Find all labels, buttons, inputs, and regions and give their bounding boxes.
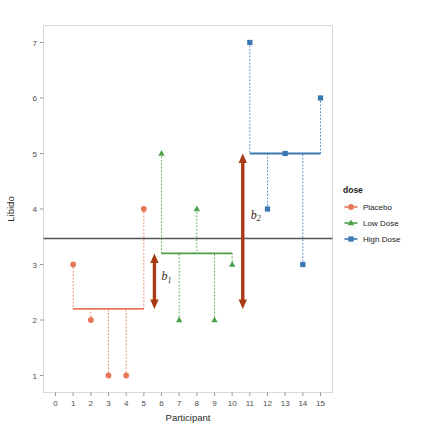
legend-item-placebo[interactable]: Placebo [344, 200, 392, 214]
data-point-circle [106, 373, 112, 379]
x-tick-label: 11 [246, 399, 255, 408]
legend-label: High Dose [363, 235, 401, 244]
data-point-circle [123, 373, 129, 379]
x-tick-label: 3 [106, 399, 111, 408]
data-point-square [265, 206, 270, 211]
y-axis-title: Libido [5, 196, 16, 221]
data-point-square [247, 40, 252, 45]
annotation-subscript: 2 [257, 214, 261, 223]
plot-panel [44, 26, 333, 393]
y-tick-label: 7 [33, 39, 38, 48]
y-tick-label: 5 [33, 150, 38, 159]
y-tick-label: 4 [33, 205, 38, 214]
legend-title: dose [343, 185, 363, 195]
y-tick-label: 6 [33, 94, 38, 103]
data-point-circle [141, 206, 147, 212]
annotation-subscript: 1 [168, 276, 172, 285]
data-point-square [318, 95, 323, 100]
legend-item-low-dose[interactable]: Low Dose [344, 216, 399, 230]
chart-container: b1b2 01234567891011121314151234567Partic… [0, 0, 421, 431]
x-tick-label: 14 [298, 399, 307, 408]
panel-background [44, 26, 333, 393]
x-tick-label: 10 [228, 399, 237, 408]
x-axis-title: Participant [166, 412, 211, 423]
data-point-circle [70, 262, 76, 268]
x-tick-label: 7 [177, 399, 182, 408]
legend-marker-circle [348, 204, 354, 210]
x-tick-label: 4 [124, 399, 129, 408]
x-tick-label: 13 [281, 399, 290, 408]
x-tick-label: 0 [53, 399, 58, 408]
legend-label: Placebo [363, 203, 392, 212]
x-tick-label: 15 [316, 399, 325, 408]
y-tick-label: 2 [33, 316, 38, 325]
x-tick-label: 12 [263, 399, 272, 408]
x-tick-label: 1 [71, 399, 76, 408]
x-tick-label: 6 [159, 399, 164, 408]
x-tick-label: 2 [89, 399, 94, 408]
legend-item-high-dose[interactable]: High Dose [344, 232, 401, 246]
legend-label: Low Dose [363, 219, 399, 228]
legend: dosePlaceboLow DoseHigh Dose [343, 185, 401, 246]
x-tick-label: 8 [195, 399, 200, 408]
x-tick-label: 9 [212, 399, 217, 408]
y-tick-label: 3 [33, 261, 38, 270]
data-point-circle [88, 317, 94, 323]
data-point-square [300, 262, 305, 267]
legend-marker-square [348, 236, 353, 241]
y-tick-label: 1 [33, 372, 38, 381]
scatter-plot: b1b2 01234567891011121314151234567Partic… [0, 0, 421, 431]
x-tick-label: 5 [142, 399, 147, 408]
data-point-square [283, 151, 288, 156]
